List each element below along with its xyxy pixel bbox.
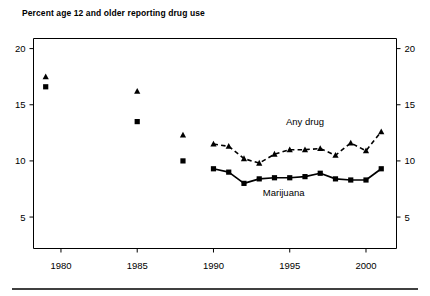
data-point-marker-triangle — [317, 145, 323, 151]
data-point-marker-square — [318, 171, 323, 176]
data-point-marker-square — [363, 177, 368, 182]
y-axis-label-right: 15 — [405, 99, 416, 110]
data-point-marker-square — [302, 174, 307, 179]
series-annotation-marijuana: Marijuana — [263, 187, 305, 198]
data-point-marker-square — [211, 166, 216, 171]
data-point-marker-square — [43, 84, 48, 89]
y-axis-label-left: 15 — [15, 99, 26, 110]
x-axis-label: 1985 — [127, 260, 148, 271]
y-axis-label-right: 5 — [405, 212, 410, 223]
y-axis-label-left: 5 — [20, 212, 25, 223]
data-point-marker-square — [287, 175, 292, 180]
data-point-marker-square — [241, 181, 246, 186]
y-axis-label-right: 10 — [405, 155, 416, 166]
data-point-marker-triangle — [226, 143, 232, 149]
data-point-marker-triangle — [348, 140, 354, 146]
y-axis-label-right: 20 — [405, 43, 416, 54]
data-point-marker-triangle — [134, 88, 140, 94]
y-axis-label-left: 20 — [15, 43, 26, 54]
x-axis-label: 1980 — [50, 260, 71, 271]
x-axis-label: 2000 — [355, 260, 376, 271]
data-point-marker-square — [272, 175, 277, 180]
series-line-marijuana — [213, 169, 381, 184]
data-point-marker-square — [135, 119, 140, 124]
data-point-marker-square — [257, 176, 262, 181]
x-axis-label: 1990 — [203, 260, 224, 271]
data-point-marker-triangle — [43, 73, 49, 79]
data-point-marker-square — [379, 166, 384, 171]
data-point-marker-square — [180, 158, 185, 163]
data-point-marker-triangle — [378, 128, 384, 134]
figure-container: Percent age 12 and older reporting drug … — [0, 0, 430, 296]
data-point-marker-square — [348, 177, 353, 182]
data-point-marker-square — [333, 176, 338, 181]
series-annotation-any-drug: Any drug — [286, 116, 324, 127]
chart-plot-area: 5510101515202019801985199019952000Any dr… — [0, 0, 430, 296]
data-point-marker-triangle — [180, 132, 186, 138]
x-axis-label: 1995 — [279, 260, 300, 271]
data-point-marker-square — [226, 170, 231, 175]
series-line-any-drug — [213, 132, 381, 163]
y-axis-label-left: 10 — [15, 155, 26, 166]
